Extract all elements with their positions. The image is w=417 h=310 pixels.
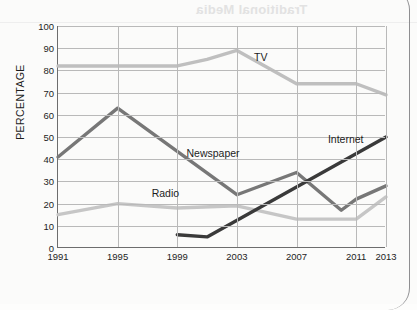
y-axis-tick: 30: [43, 176, 54, 187]
gridline-horizontal: [58, 26, 385, 27]
gridline-horizontal: [58, 226, 385, 227]
x-axis-tick: 1999: [167, 251, 188, 262]
gridline-vertical: [386, 26, 387, 247]
x-axis-tick: 2011: [346, 251, 366, 262]
series-label-internet: Internet: [328, 133, 364, 145]
gridline-vertical: [177, 26, 178, 247]
gridline-horizontal: [58, 159, 385, 160]
gridline-vertical: [297, 26, 298, 247]
x-axis-tick: 2003: [226, 251, 247, 262]
y-axis-tick: 40: [43, 154, 54, 165]
series-label-newspaper: Newspaper: [186, 147, 239, 159]
gridline-horizontal: [58, 48, 385, 49]
y-axis-tick: 20: [43, 198, 54, 209]
x-axis-tick: 2007: [286, 251, 307, 262]
y-axis-label: PERCENTAGE: [14, 42, 26, 162]
y-axis-tick: 90: [43, 43, 54, 54]
plot-area: 0102030405060708090100199119951999200320…: [57, 26, 385, 248]
gridline-horizontal: [58, 115, 385, 116]
gridline-horizontal: [58, 181, 385, 182]
y-axis-tick: 10: [43, 220, 54, 231]
x-axis-tick: 1991: [47, 251, 68, 262]
gridline-horizontal: [58, 93, 385, 94]
gridline-horizontal: [58, 204, 385, 205]
series-label-tv: TV: [254, 51, 267, 63]
gridline-horizontal: [58, 70, 385, 71]
gridline-vertical: [118, 26, 119, 247]
series-label-radio: Radio: [152, 187, 179, 199]
y-axis-tick: 60: [43, 109, 54, 120]
y-axis-tick: 50: [43, 132, 54, 143]
y-axis-tick: 100: [38, 21, 54, 32]
series-line-tv: [58, 50, 386, 94]
x-axis-tick: 1995: [107, 251, 128, 262]
gridline-vertical: [237, 26, 238, 247]
x-axis-tick: 2013: [375, 251, 396, 262]
y-axis-tick: 70: [43, 87, 54, 98]
y-axis-tick: 80: [43, 65, 54, 76]
